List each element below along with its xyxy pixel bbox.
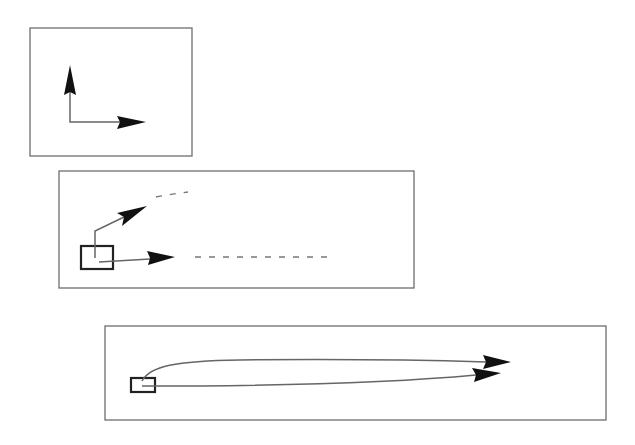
panel-1 — [30, 28, 192, 156]
panel-2 — [59, 171, 414, 288]
panel-2-frame — [59, 171, 414, 288]
panel-3 — [105, 326, 606, 420]
panel-3-frame — [105, 326, 606, 420]
panel-1-frame — [30, 28, 192, 156]
diagram-canvas — [0, 0, 635, 445]
